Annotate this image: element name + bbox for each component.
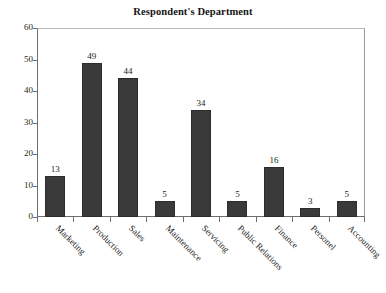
bar[interactable]	[300, 208, 320, 217]
y-axis-tick-label: 30	[0, 117, 33, 129]
x-axis-tick-mark	[183, 217, 184, 222]
bar[interactable]	[118, 78, 138, 217]
bar-value-label: 5	[345, 189, 350, 199]
y-axis-tick-label: 40	[0, 85, 33, 97]
bar[interactable]	[45, 176, 65, 217]
y-axis-tick-label: 0	[0, 211, 33, 223]
bar-value-label: 5	[235, 189, 240, 199]
bar-value-label: 3	[308, 196, 313, 206]
bar[interactable]	[155, 201, 175, 217]
y-axis-tick-mark	[33, 217, 37, 218]
bar-value-label: 34	[196, 98, 205, 108]
bar[interactable]	[227, 201, 247, 217]
bar-value-label: 5	[162, 189, 167, 199]
bar[interactable]	[264, 167, 284, 217]
bar[interactable]	[337, 201, 357, 217]
bar-value-label: 49	[87, 51, 96, 61]
bar-group: 5	[329, 28, 365, 217]
bar[interactable]	[191, 110, 211, 217]
x-axis-tick-mark	[37, 217, 38, 222]
y-axis-tick-label: 60	[0, 22, 33, 34]
y-axis-tick-mark	[33, 123, 37, 124]
bar-value-label: 44	[124, 66, 133, 76]
y-axis-tick-label: 10	[0, 180, 33, 192]
bar-chart: Respondent's Department 0102030405060 13…	[0, 0, 386, 293]
x-axis-category-label: Personel	[309, 223, 338, 252]
bars-layer: 13494453451635	[37, 28, 365, 217]
x-axis-category-label: Maintenance	[163, 223, 203, 263]
bar-group: 5	[146, 28, 182, 217]
bar-group: 16	[256, 28, 292, 217]
y-axis-tick-label: 20	[0, 148, 33, 160]
x-axis-tick-mark	[110, 217, 111, 222]
bar-group: 5	[219, 28, 255, 217]
bar-group: 34	[183, 28, 219, 217]
bar[interactable]	[82, 63, 102, 217]
bar-group: 3	[292, 28, 328, 217]
chart-title: Respondent's Department	[0, 6, 386, 17]
x-axis-labels: MarketingProductionSalesMaintenanceServi…	[37, 223, 365, 293]
y-axis-tick-mark	[33, 28, 37, 29]
y-axis-tick-label: 50	[0, 54, 33, 66]
x-axis-category-label: Servicing	[200, 223, 231, 254]
bar-group: 49	[73, 28, 109, 217]
x-axis-tick-mark	[73, 217, 74, 222]
y-axis-tick-mark	[33, 186, 37, 187]
x-axis-category-label: Production	[91, 223, 126, 258]
y-axis-tick-mark	[33, 60, 37, 61]
x-axis-category-label: Sales	[127, 223, 148, 244]
bar-value-label: 13	[51, 164, 60, 174]
x-axis-tick-mark	[292, 217, 293, 222]
x-axis-category-label: Finance	[273, 223, 300, 250]
y-axis: 0102030405060	[0, 28, 33, 217]
x-axis-tick-mark	[219, 217, 220, 222]
x-axis-tick-mark	[329, 217, 330, 222]
bar-group: 44	[110, 28, 146, 217]
x-axis-tick-mark	[256, 217, 257, 222]
x-axis-tick-mark	[146, 217, 147, 222]
bar-value-label: 16	[269, 155, 278, 165]
x-axis-tick-mark	[364, 217, 365, 222]
x-axis-category-label: Accounting	[346, 223, 383, 260]
y-axis-tick-mark	[33, 154, 37, 155]
x-axis-category-label: Marketing	[54, 223, 88, 257]
bar-group: 13	[37, 28, 73, 217]
y-axis-tick-mark	[33, 91, 37, 92]
